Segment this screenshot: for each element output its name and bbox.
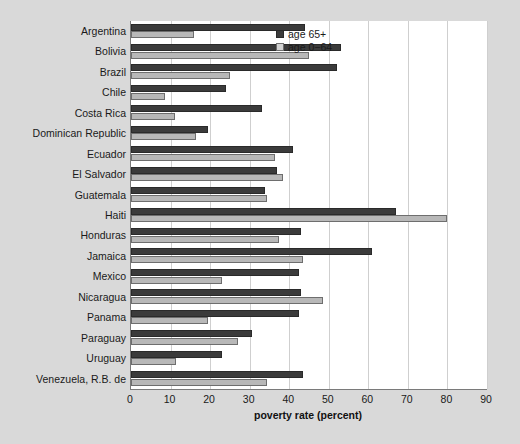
gridline-x-90	[487, 21, 488, 389]
category-label: Panama	[87, 307, 126, 327]
x-tick-label-50: 50	[322, 393, 334, 405]
x-tick-label-80: 80	[441, 393, 453, 405]
bar-age-65-plus	[131, 330, 252, 337]
bar-group	[131, 185, 487, 205]
bar-age-0-64	[131, 174, 283, 181]
bar-age-0-64	[131, 215, 447, 222]
bar-age-0-64	[131, 256, 303, 263]
bar-group	[131, 246, 487, 266]
bar-group	[131, 328, 487, 348]
category-label: Dominican Republic	[33, 123, 126, 143]
bar-group	[131, 225, 487, 245]
bar-age-65-plus	[131, 85, 226, 92]
category-label: Costa Rica	[75, 103, 126, 123]
chart-panel: age 65+ age 0−64 poverty rate (percent) …	[13, 13, 507, 417]
category-label: Haiti	[105, 205, 126, 225]
category-label: Argentina	[81, 21, 126, 41]
x-tick-label-60: 60	[361, 393, 373, 405]
bar-age-0-64	[131, 133, 196, 140]
bar-age-65-plus	[131, 269, 299, 276]
legend-label-age-0-64: age 0−64	[288, 41, 332, 53]
bar-group	[131, 348, 487, 368]
bar-age-65-plus	[131, 146, 293, 153]
x-tick-label-10: 10	[164, 393, 176, 405]
bar-age-65-plus	[131, 310, 299, 317]
bar-age-0-64	[131, 195, 267, 202]
bar-age-0-64	[131, 236, 279, 243]
bar-age-65-plus	[131, 105, 262, 112]
legend-item-age-65-plus: age 65+	[276, 27, 332, 40]
category-label: Jamaica	[87, 246, 126, 266]
bar-age-65-plus	[131, 248, 372, 255]
category-label: Guatemala	[75, 185, 126, 205]
bar-age-65-plus	[131, 208, 396, 215]
bar-age-65-plus	[131, 64, 337, 71]
bar-age-0-64	[131, 93, 165, 100]
bar-group	[131, 144, 487, 164]
x-tick-label-70: 70	[401, 393, 413, 405]
bar-age-0-64	[131, 154, 275, 161]
bar-age-65-plus	[131, 126, 208, 133]
bar-age-0-64	[131, 379, 267, 386]
category-label: Ecuador	[87, 144, 126, 164]
figure-canvas: age 65+ age 0−64 poverty rate (percent) …	[0, 0, 520, 444]
bar-group	[131, 164, 487, 184]
bar-age-0-64	[131, 113, 175, 120]
bar-age-0-64	[131, 72, 230, 79]
x-tick-label-20: 20	[203, 393, 215, 405]
bar-age-0-64	[131, 277, 222, 284]
clipped-top-caption	[0, 0, 520, 9]
bar-group	[131, 82, 487, 102]
x-axis-title: poverty rate (percent)	[130, 409, 486, 421]
bar-age-0-64	[131, 338, 238, 345]
category-label: Nicaragua	[78, 287, 126, 307]
bar-age-0-64	[131, 297, 323, 304]
bar-group	[131, 123, 487, 143]
bar-group	[131, 266, 487, 286]
legend-label-age-65-plus: age 65+	[288, 28, 326, 40]
bar-group	[131, 307, 487, 327]
bar-group	[131, 369, 487, 389]
category-label: Brazil	[100, 62, 126, 82]
category-label: Chile	[102, 82, 126, 102]
legend-item-age-0-64: age 0−64	[276, 40, 332, 53]
category-label: Venezuela, R.B. de	[36, 369, 126, 389]
bar-age-0-64	[131, 358, 176, 365]
bar-group	[131, 205, 487, 225]
legend-swatch-icon-age-0-64	[276, 43, 284, 51]
category-label: Bolivia	[95, 41, 126, 61]
legend-swatch-icon-age-65-plus	[276, 30, 284, 38]
x-axis-line	[130, 389, 487, 390]
category-label: El Salvador	[72, 164, 126, 184]
bar-age-0-64	[131, 317, 208, 324]
bar-group	[131, 287, 487, 307]
chart-legend: age 65+ age 0−64	[276, 27, 332, 53]
bar-age-65-plus	[131, 289, 301, 296]
bar-group	[131, 103, 487, 123]
bar-age-65-plus	[131, 187, 265, 194]
category-label: Uruguay	[86, 348, 126, 368]
bar-age-65-plus	[131, 371, 303, 378]
x-tick-label-0: 0	[127, 393, 133, 405]
bar-group	[131, 62, 487, 82]
plot-area	[130, 21, 487, 389]
category-label: Paraguay	[81, 328, 126, 348]
x-tick-label-40: 40	[282, 393, 294, 405]
x-tick-label-90: 90	[480, 393, 492, 405]
bar-age-65-plus	[131, 167, 277, 174]
bar-age-65-plus	[131, 228, 301, 235]
category-label: Mexico	[93, 266, 126, 286]
x-tick-label-30: 30	[243, 393, 255, 405]
category-label: Honduras	[80, 225, 126, 245]
bar-age-0-64	[131, 31, 194, 38]
bar-age-65-plus	[131, 351, 222, 358]
